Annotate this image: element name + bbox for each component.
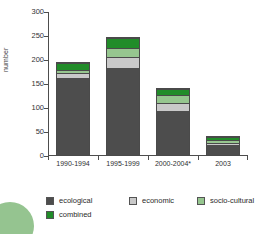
x-tick-label: 2003: [215, 160, 231, 167]
y-tick-label: 250: [18, 32, 44, 40]
legend-swatch-icon: [46, 211, 54, 219]
legend-item-combined[interactable]: combined: [46, 210, 92, 219]
legend-label: combined: [59, 210, 92, 219]
bar-2003: [206, 136, 240, 156]
stacked-bar-chart-figure: number 050100150200250300 1990-19941995-…: [0, 0, 264, 234]
bar-segment-economic: [157, 103, 189, 111]
legend-item-economic[interactable]: economic: [129, 196, 174, 205]
y-tick-label: 50: [18, 128, 44, 136]
bar-1995-1999: [106, 37, 140, 156]
y-tick-mark: [44, 84, 48, 85]
y-tick-label: 300: [18, 8, 44, 16]
y-tick-mark: [44, 60, 48, 61]
bar-segment-ecological: [207, 145, 239, 155]
y-axis-label: number: [2, 48, 9, 72]
bar-segment-socio-cultural: [107, 48, 139, 57]
plot-area: number 050100150200250300 1990-19941995-…: [0, 0, 264, 186]
y-tick-label: 200: [18, 56, 44, 64]
bar-segment-economic: [107, 57, 139, 67]
chart-legend: ecologicaleconomicsocio-culturalcombined: [46, 196, 264, 230]
y-tick-label: 0: [18, 152, 44, 160]
x-axis-tick-labels: 1990-19941995-19992000-2004*2003: [48, 160, 248, 174]
decorative-circle: [0, 202, 34, 234]
bar-segment-combined: [107, 38, 139, 48]
axes: [48, 12, 248, 156]
bar-2000-2004-: [156, 88, 190, 156]
y-axis-tick-labels: 050100150200250300: [14, 0, 44, 156]
legend-item-ecological[interactable]: ecological: [46, 196, 92, 205]
legend-swatch-icon: [46, 197, 54, 205]
bar-segment-socio-cultural: [157, 95, 189, 103]
bar-1990-1994: [56, 62, 90, 156]
legend-label: economic: [142, 196, 174, 205]
y-tick-mark: [44, 108, 48, 109]
y-tick-label: 150: [18, 80, 44, 88]
bar-segment-ecological: [57, 78, 89, 155]
y-tick-mark: [44, 12, 48, 13]
x-tick-label: 1990-1994: [56, 160, 89, 167]
x-tick-label: 2000-2004*: [155, 160, 191, 167]
legend-label: socio-cultural: [210, 196, 254, 205]
y-tick-label: 100: [18, 104, 44, 112]
bar-segment-ecological: [157, 111, 189, 156]
x-tick-label: 1995-1999: [106, 160, 139, 167]
y-tick-mark: [44, 132, 48, 133]
legend-item-socio-cultural[interactable]: socio-cultural: [197, 196, 254, 205]
legend-swatch-icon: [129, 197, 137, 205]
legend-label: ecological: [59, 196, 92, 205]
legend-swatch-icon: [197, 197, 205, 205]
bar-segment-ecological: [107, 68, 139, 155]
y-tick-mark: [44, 36, 48, 37]
bars-container: [48, 12, 248, 156]
